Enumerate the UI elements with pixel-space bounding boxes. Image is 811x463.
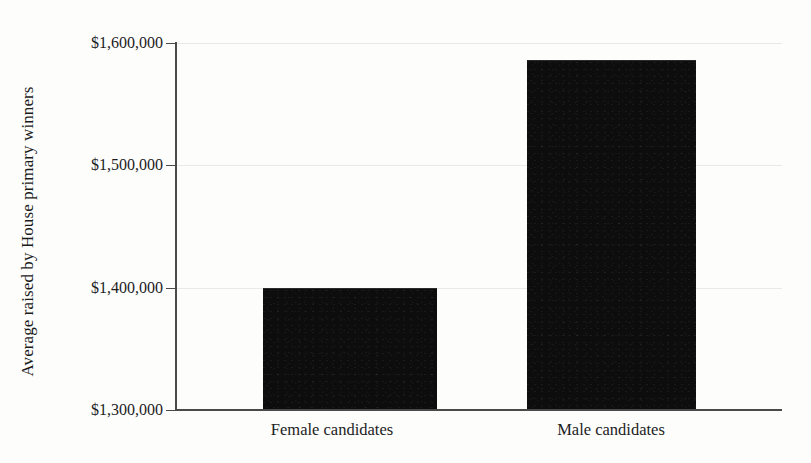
y-axis-tick-labels: $1,600,000 $1,500,000 $1,400,000 $1,300,… bbox=[42, 0, 163, 463]
y-tick-label-1400000: $1,400,000 bbox=[43, 279, 163, 297]
y-axis-line bbox=[175, 42, 177, 411]
bar-female-candidates bbox=[263, 288, 437, 411]
bar-chart: Average raised by House primary winners … bbox=[0, 0, 811, 463]
y-tick-label-1500000: $1,500,000 bbox=[43, 156, 163, 174]
plot-area bbox=[176, 43, 782, 410]
x-axis-line bbox=[176, 409, 782, 411]
y-tick-label-1300000: $1,300,000 bbox=[43, 401, 163, 419]
x-tick-label-female-candidates: Female candidates bbox=[223, 420, 441, 440]
y-tick-label-1600000: $1,600,000 bbox=[43, 34, 163, 52]
gridline-1600000 bbox=[176, 43, 782, 44]
x-tick-label-male-candidates: Male candidates bbox=[502, 420, 720, 440]
bar-male-candidates bbox=[527, 60, 696, 411]
